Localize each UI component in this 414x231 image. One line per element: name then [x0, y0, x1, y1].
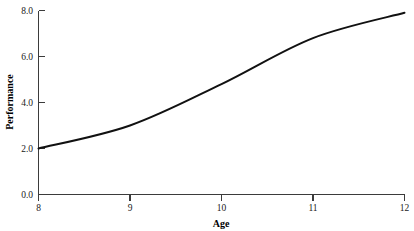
- y-tick-label: 6.0: [21, 52, 33, 62]
- x-axis-title: Age: [213, 218, 230, 229]
- chart-background: [0, 0, 414, 231]
- y-tick-label: 4.0: [21, 98, 33, 108]
- x-tick-label: 11: [308, 203, 317, 213]
- chart-page: 8.0 6.0 4.0 2.0 0.0 8 9 10 11 12 Perform…: [0, 0, 414, 231]
- performance-by-age-line-chart: 8.0 6.0 4.0 2.0 0.0 8 9 10 11 12 Perform…: [0, 0, 414, 231]
- x-tick-label: 8: [36, 203, 41, 213]
- x-tick-label: 10: [217, 203, 227, 213]
- y-axis-title: Performance: [4, 74, 15, 130]
- x-tick-label: 12: [400, 203, 410, 213]
- y-tick-label: 0.0: [21, 190, 33, 200]
- x-tick-label: 9: [128, 203, 133, 213]
- y-tick-label: 2.0: [21, 144, 33, 154]
- y-tick-label: 8.0: [21, 6, 33, 16]
